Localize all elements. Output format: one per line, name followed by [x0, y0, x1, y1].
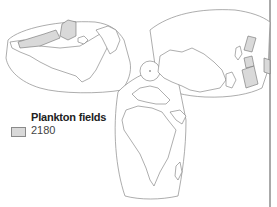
plankton-field-east-edge: [264, 58, 270, 74]
legend-title: Plankton fields: [31, 111, 106, 123]
world-map: [0, 0, 277, 207]
north-pole-dot: [149, 70, 151, 72]
legend-swatch-plankton: [11, 127, 26, 137]
legend-item-label: 2180: [31, 124, 55, 136]
